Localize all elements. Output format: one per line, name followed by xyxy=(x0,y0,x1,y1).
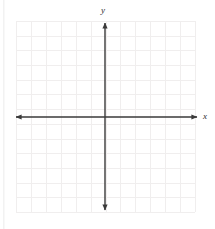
coordinate-plane-figure: y x xyxy=(0,0,215,229)
axes-layer xyxy=(0,0,215,229)
x-axis-label: x xyxy=(203,112,207,121)
y-axis-label: y xyxy=(101,6,105,15)
